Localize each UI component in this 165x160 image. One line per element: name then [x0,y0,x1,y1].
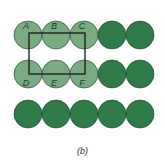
circle-grid-diagram: ABCDEF [0,0,165,160]
circle-label-e: E [51,78,58,88]
circle-label-f: F [79,78,85,88]
circle-dark [98,21,126,49]
circle-dark [70,100,98,128]
circle-dark [126,100,154,128]
circle-dark [98,100,126,128]
circle-label-b: B [51,21,57,31]
circle-dark [42,100,70,128]
circle-dark [126,21,154,49]
circle-dark [98,60,126,88]
figure-caption: (b) [0,146,165,156]
circle-dark [14,100,42,128]
circle-label-a: A [22,21,29,31]
circle-label-d: D [23,78,30,88]
circle-label-c: C [79,21,86,31]
circle-dark [126,60,154,88]
